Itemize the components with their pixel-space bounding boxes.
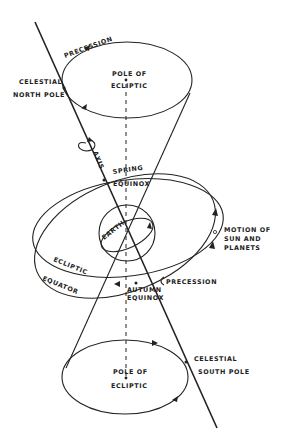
spring-equinox-label: EQUINOX	[113, 180, 150, 188]
celestial-south-pole-dot	[185, 361, 188, 364]
planets-label: PLANETS	[224, 244, 261, 252]
celestial-north-label: CELESTIAL	[19, 78, 62, 86]
south-ecliptic-pole-dot	[125, 377, 128, 380]
ecliptic-curve-label: ECLIPTIC	[52, 255, 89, 276]
spring-equinox-dot	[103, 179, 106, 182]
precession-mid-label: PRECESSION	[166, 278, 217, 286]
motion-label: MOTION OF	[224, 226, 271, 234]
south-pole-label: SOUTH POLE	[198, 368, 250, 376]
north-pole-label: NORTH POLE	[13, 91, 65, 99]
diagram-canvas: PRECESSION CELESTIAL NORTH POLE POLE OF …	[0, 0, 283, 445]
spring-label: SPRING	[112, 164, 144, 176]
sun-and-label: SUN AND	[224, 235, 261, 243]
precession-top-label: PRECESSION	[63, 35, 114, 60]
pole-of-ecliptic-top-label: POLE OF	[112, 70, 147, 78]
autumn-equinox-label: EQUINOX	[127, 294, 164, 302]
north-ecliptic-pole-dot	[125, 79, 128, 82]
earth-label: EARTH	[100, 219, 126, 242]
rotation-arrow-icon	[79, 140, 95, 151]
arrow-icon	[114, 281, 120, 287]
sun-marker	[213, 230, 216, 233]
ecliptic-top-label: ECLIPTIC	[111, 82, 147, 90]
arrow-icon	[147, 222, 152, 229]
precession-diagram: PRECESSION CELESTIAL NORTH POLE POLE OF …	[0, 0, 283, 445]
autumn-equinox-dot	[135, 282, 138, 285]
south-precession-circle	[62, 340, 188, 414]
celestial-north-pole-dot	[63, 87, 66, 90]
ecliptic-bottom-label: ECLIPTIC	[111, 382, 147, 390]
celestial-south-label: CELESTIAL	[194, 355, 237, 363]
axis-label: AXIS	[91, 150, 106, 171]
autumn-label: AUTUMN	[127, 286, 162, 294]
pole-of-ecliptic-bottom-label: POLE OF	[113, 368, 148, 376]
